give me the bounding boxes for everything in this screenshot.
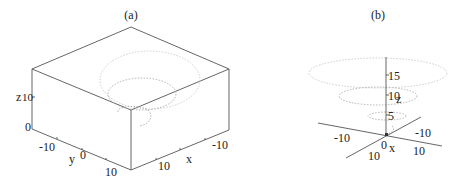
- panel-b-title: (b): [371, 8, 385, 22]
- front-left-tick-label: 10: [368, 149, 380, 163]
- y-axis-label: y: [69, 152, 75, 166]
- panel-b: (b) 15 10 z 5 -10 -10 0 x 10 10: [309, 8, 447, 163]
- figure-canvas: (a) z 10 0 -10 y 0: [0, 0, 462, 182]
- x-tick-label: -10: [212, 138, 228, 152]
- left-tick-label: -10: [334, 131, 350, 145]
- z-tick-label-5: 5: [388, 109, 394, 123]
- right-tick-label: -10: [415, 126, 431, 140]
- x-tick-label: 10: [158, 159, 170, 173]
- panel-a-box: [32, 27, 229, 170]
- y-tick-label: 10: [105, 165, 117, 179]
- panel-a-title: (a): [124, 8, 137, 22]
- box-top-face: [32, 27, 229, 110]
- y-tick-label: 0: [80, 148, 86, 162]
- panel-b-helix: [309, 58, 447, 135]
- spiral-outer-loop: [100, 51, 200, 109]
- helix-top-loop: [309, 58, 447, 88]
- x-axis-label: x: [186, 152, 192, 166]
- x-axis-label: x: [389, 141, 395, 155]
- origin-marker: [385, 133, 388, 136]
- origin-label: 0: [381, 138, 387, 152]
- front-right-tick-label: 10: [413, 144, 425, 158]
- z-tick-label-15: 15: [388, 69, 400, 83]
- z-axis-label: z: [396, 92, 401, 106]
- z-tick-bottom-label: 0: [25, 120, 31, 134]
- z-tick-top-label: 10: [22, 91, 34, 103]
- panel-a: (a) z 10 0 -10 y 0: [16, 8, 229, 179]
- z-axis-label: z: [16, 90, 21, 104]
- helix-lower-loop: [368, 112, 406, 120]
- panel-a-spiral: [100, 51, 200, 126]
- helix-middle-loop: [339, 87, 417, 105]
- y-tick-label: -10: [39, 140, 55, 154]
